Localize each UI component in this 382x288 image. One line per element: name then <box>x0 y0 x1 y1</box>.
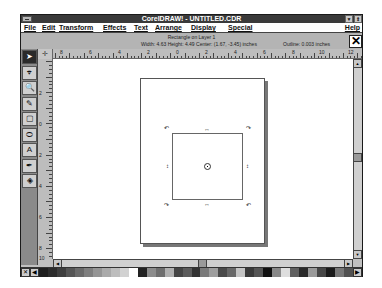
vertical-scroll-thumb[interactable] <box>353 153 362 162</box>
color-swatch[interactable] <box>326 268 335 277</box>
ruler-tick <box>109 56 110 58</box>
ruler-tick <box>293 56 294 58</box>
menu-effects[interactable]: Effects <box>103 23 126 33</box>
menu-transform[interactable]: Transform <box>59 23 93 33</box>
color-swatch[interactable] <box>57 268 66 277</box>
outline-tool-icon[interactable]: ✒ <box>22 159 37 173</box>
scroll-up-button[interactable]: ▲ <box>353 59 362 68</box>
color-swatch[interactable] <box>209 268 218 277</box>
menu-edit[interactable]: Edit <box>42 23 55 33</box>
color-swatch[interactable] <box>147 268 156 277</box>
color-swatch[interactable] <box>93 268 102 277</box>
ruler-tick <box>231 56 232 58</box>
skew-handle-top-icon[interactable]: ↔ <box>204 126 210 132</box>
ruler-crosshair-icon[interactable]: ✛ <box>38 49 53 59</box>
color-swatch[interactable] <box>138 268 147 277</box>
system-menu-button[interactable] <box>22 16 32 22</box>
vertical-scrollbar[interactable]: ▲ ▼ <box>353 59 362 259</box>
ruler-tick <box>339 56 340 58</box>
ellipse-tool-icon[interactable]: ⬭ <box>22 128 37 142</box>
menu-arrange[interactable]: Arrange <box>155 23 182 33</box>
color-swatch[interactable] <box>174 268 183 277</box>
ruler-tick <box>46 233 52 234</box>
color-swatch[interactable] <box>299 268 308 277</box>
color-swatch[interactable] <box>66 268 75 277</box>
ruler-tick <box>49 244 52 245</box>
ruler-tick <box>296 56 297 58</box>
palette-scroll-left-button[interactable]: ◀ <box>30 268 39 277</box>
color-swatch[interactable] <box>227 268 236 277</box>
pencil-tool-icon[interactable]: ✎ <box>22 97 37 111</box>
ruler-tick <box>152 56 153 58</box>
skew-handle-bottom-icon[interactable]: ↔ <box>204 201 210 207</box>
color-swatch[interactable] <box>102 268 111 277</box>
horizontal-ruler[interactable]: ✛ 8642024681012 <box>38 49 362 59</box>
drawing-canvas[interactable]: ↶ ↷ ↷ ↶ ↔ ↔ ↕ ↕ <box>53 59 353 259</box>
rotate-handle-bottom-right-icon[interactable]: ↶ <box>246 202 251 208</box>
color-swatch[interactable] <box>236 268 245 277</box>
color-swatch[interactable] <box>39 268 48 277</box>
skew-handle-right-icon[interactable]: ↕ <box>246 163 249 169</box>
rotate-handle-top-right-icon[interactable]: ↷ <box>246 125 251 131</box>
ruler-label: 4 <box>234 49 237 55</box>
color-swatch[interactable] <box>272 268 281 277</box>
ruler-tick <box>307 56 308 58</box>
ruler-label: 6 <box>39 214 42 220</box>
title-bar[interactable]: CorelDRAW! - UNTITLED.CDR ▼ ⇕ <box>21 15 362 23</box>
rotate-handle-top-left-icon[interactable]: ↶ <box>164 125 169 131</box>
menu-text[interactable]: Text <box>134 23 148 33</box>
rotate-handle-bottom-left-icon[interactable]: ↷ <box>164 202 169 208</box>
palette-scroll-right-button[interactable]: ▶ <box>353 268 362 277</box>
pick-tool-icon[interactable]: ➤ <box>22 50 37 64</box>
skew-handle-left-icon[interactable]: ↕ <box>166 163 169 169</box>
vertical-ruler[interactable]: 20246810 <box>38 59 53 259</box>
ruler-tick <box>49 73 52 74</box>
ruler-tick <box>49 225 52 226</box>
color-swatch[interactable] <box>111 268 120 277</box>
menu-special[interactable]: Special <box>228 23 253 33</box>
color-swatch[interactable] <box>290 268 299 277</box>
color-swatch[interactable] <box>192 268 201 277</box>
color-swatch[interactable] <box>75 268 84 277</box>
shape-tool-icon[interactable]: ⌖ <box>22 66 37 80</box>
text-tool-icon[interactable]: A <box>22 143 37 157</box>
menu-file[interactable]: File <box>24 23 36 33</box>
color-swatch[interactable] <box>344 268 353 277</box>
no-color-swatch[interactable]: ✕ <box>21 268 30 277</box>
color-swatch[interactable] <box>183 268 192 277</box>
color-swatch[interactable] <box>308 268 317 277</box>
menu-display[interactable]: Display <box>191 23 216 33</box>
color-swatch[interactable] <box>48 268 57 277</box>
rectangle-tool-icon[interactable]: ▢ <box>22 112 37 126</box>
ruler-tick <box>46 123 52 124</box>
selected-rectangle[interactable]: ↶ ↷ ↷ ↶ ↔ ↔ ↕ ↕ <box>172 133 243 200</box>
fill-tool-icon[interactable]: ◈ <box>22 174 37 188</box>
color-swatch[interactable] <box>281 268 290 277</box>
color-swatch[interactable] <box>317 268 326 277</box>
restore-button[interactable]: ⇕ <box>354 15 362 23</box>
menu-help[interactable]: Help <box>345 23 360 33</box>
scroll-down-button[interactable]: ▼ <box>353 250 362 259</box>
zoom-tool-icon[interactable]: 🔍 <box>22 81 37 95</box>
color-swatch[interactable] <box>200 268 209 277</box>
color-swatch[interactable] <box>245 268 254 277</box>
color-swatch[interactable] <box>218 268 227 277</box>
color-swatch[interactable] <box>165 268 174 277</box>
color-swatch[interactable] <box>129 268 138 277</box>
horizontal-scrollbar[interactable]: ◀ ▶ <box>53 259 353 267</box>
color-swatch[interactable] <box>156 268 165 277</box>
ruler-tick <box>235 56 236 58</box>
ruler-label: 2 <box>205 49 208 55</box>
ruler-tick <box>49 84 52 85</box>
ruler-tick <box>357 53 358 58</box>
color-swatch[interactable] <box>335 268 344 277</box>
rotation-center-icon[interactable] <box>204 163 211 170</box>
color-swatch[interactable] <box>84 268 93 277</box>
ruler-tick <box>46 108 52 109</box>
color-swatch[interactable] <box>263 268 272 277</box>
minimize-button[interactable]: ▼ <box>345 15 353 23</box>
color-swatch[interactable] <box>254 268 263 277</box>
ruler-label: 2 <box>39 90 42 96</box>
close-icon[interactable]: ✕ <box>349 35 362 48</box>
color-swatch[interactable] <box>120 268 129 277</box>
